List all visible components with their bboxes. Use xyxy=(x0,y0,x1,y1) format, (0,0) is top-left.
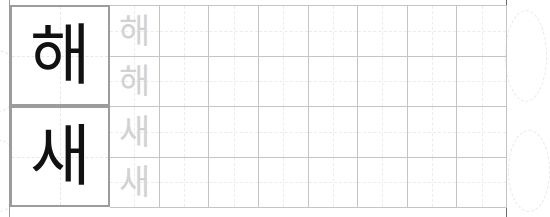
trace-character: 해 xyxy=(119,14,150,48)
practice-cell[interactable] xyxy=(160,57,210,108)
practice-cell[interactable] xyxy=(209,107,259,158)
practice-cell[interactable] xyxy=(309,107,359,158)
practice-cell[interactable]: 새 xyxy=(110,158,160,209)
practice-cell[interactable] xyxy=(457,6,507,57)
decorative-flourish xyxy=(508,130,550,212)
practice-cell[interactable] xyxy=(160,158,210,209)
model-character: 새 xyxy=(30,124,91,190)
practice-cell[interactable] xyxy=(408,158,458,209)
practice-cell[interactable] xyxy=(209,6,259,57)
practice-cell[interactable] xyxy=(358,158,408,209)
practice-cell[interactable] xyxy=(408,57,458,108)
practice-cell[interactable] xyxy=(457,158,507,209)
practice-cell[interactable] xyxy=(160,107,210,158)
practice-row-1: 해 해 해 xyxy=(10,5,507,106)
practice-cell[interactable] xyxy=(358,6,408,57)
practice-cell[interactable] xyxy=(259,158,309,209)
practice-cell[interactable] xyxy=(408,6,458,57)
practice-cell[interactable] xyxy=(259,6,309,57)
practice-cell[interactable] xyxy=(457,57,507,108)
model-character-box: 새 xyxy=(10,106,110,207)
practice-cell[interactable] xyxy=(457,107,507,158)
trace-character: 새 xyxy=(119,115,150,149)
practice-cell[interactable] xyxy=(259,57,309,108)
practice-row-2: 새 새 새 xyxy=(10,106,507,207)
practice-cell[interactable] xyxy=(358,57,408,108)
practice-cell[interactable] xyxy=(209,57,259,108)
practice-cell[interactable]: 해 xyxy=(110,6,160,57)
practice-cell[interactable] xyxy=(408,107,458,158)
practice-cell[interactable] xyxy=(309,158,359,209)
practice-cell[interactable]: 해 xyxy=(110,57,160,108)
practice-cell[interactable] xyxy=(259,107,309,158)
practice-cell[interactable] xyxy=(309,57,359,108)
practice-cell[interactable] xyxy=(160,6,210,57)
practice-grid: 해 해 xyxy=(110,5,507,107)
practice-cell[interactable] xyxy=(309,6,359,57)
model-character: 해 xyxy=(30,23,91,89)
trace-character: 해 xyxy=(119,64,150,98)
decorative-flourish xyxy=(505,10,547,102)
practice-cell[interactable]: 새 xyxy=(110,107,160,158)
practice-cell[interactable] xyxy=(358,107,408,158)
practice-cell[interactable] xyxy=(209,158,259,209)
practice-grid: 새 새 xyxy=(110,106,507,208)
trace-character: 새 xyxy=(119,165,150,199)
model-character-box: 해 xyxy=(10,5,110,106)
